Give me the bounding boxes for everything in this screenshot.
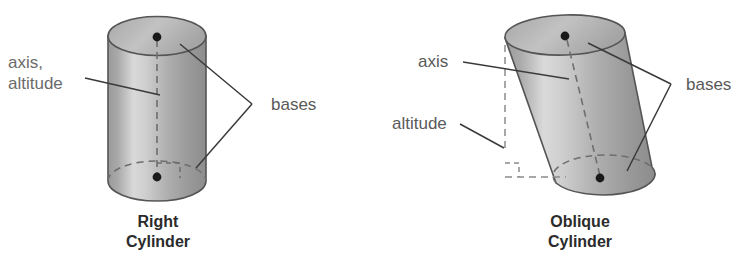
right-cylinder-bottom-center-dot (153, 173, 162, 182)
label-bases-right: bases (271, 94, 316, 115)
label-axis-altitude-line1: axis, (8, 52, 43, 73)
label-axis-oblique: axis (418, 51, 448, 72)
right-cylinder-top-center-dot (153, 33, 162, 42)
oblique-altitude-leader-line (460, 124, 504, 148)
caption-right-cylinder-line1: Right (96, 212, 220, 231)
oblique-cylinder-right-angle-marker (505, 163, 519, 177)
caption-oblique-cylinder-line1: Oblique (512, 212, 648, 231)
oblique-cylinder-body (505, 33, 655, 195)
label-bases-oblique: bases (686, 74, 731, 95)
right-cylinder-shape (108, 17, 206, 202)
diagram-page: axis, altitude bases Right Cylinder axis… (0, 0, 749, 272)
label-altitude-oblique: altitude (392, 113, 447, 134)
oblique-cylinder-bottom-center-dot (596, 174, 605, 183)
caption-right-cylinder-line2: Cylinder (96, 232, 220, 251)
label-axis-altitude-line2: altitude (8, 73, 63, 94)
oblique-cylinder-shape (504, 13, 655, 195)
oblique-cylinder-top-center-dot (561, 32, 570, 41)
caption-oblique-cylinder-line2: Cylinder (512, 232, 648, 251)
